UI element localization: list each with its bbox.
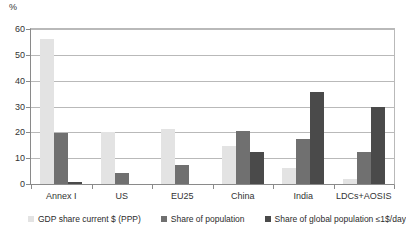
bar xyxy=(54,133,68,184)
legend-swatch-icon xyxy=(265,216,271,222)
y-axis: 60 50 40 30 20 10 0 xyxy=(0,28,30,186)
x-axis-tickmark xyxy=(213,185,214,189)
legend-item: Share of global population ≤1$/day xyxy=(265,214,406,224)
y-axis-tick-label: 20 xyxy=(15,128,25,137)
y-axis-tick-label: 10 xyxy=(15,154,25,163)
bar xyxy=(296,139,310,184)
legend-swatch-icon xyxy=(28,216,34,222)
x-axis-label: China xyxy=(213,190,274,204)
x-axis-tickmark xyxy=(394,185,395,189)
x-axis-label: US xyxy=(92,190,153,204)
bar xyxy=(115,173,129,184)
bar-group xyxy=(213,29,274,184)
legend-label: Share of population xyxy=(171,214,245,224)
bar xyxy=(371,107,385,185)
bar xyxy=(161,129,175,184)
legend-item: GDP share current $ (PPP) xyxy=(28,214,141,224)
legend-swatch-icon xyxy=(161,216,167,222)
legend-item: Share of population xyxy=(161,214,245,224)
bar-groups xyxy=(31,29,394,184)
bar xyxy=(40,39,54,184)
x-axis-labels: Annex I US EU25 China India LDCs+AOSIS xyxy=(31,190,394,204)
bar-group xyxy=(273,29,334,184)
legend-label: GDP share current $ (PPP) xyxy=(38,214,141,224)
bar-group xyxy=(92,29,153,184)
bar xyxy=(175,165,189,184)
bar-group xyxy=(152,29,213,184)
bar-group xyxy=(31,29,92,184)
x-axis-tickmarks xyxy=(31,185,394,189)
x-axis-tickmark xyxy=(31,185,32,189)
bar xyxy=(310,92,324,184)
bar xyxy=(101,132,115,184)
legend-label: Share of global population ≤1$/day xyxy=(275,214,406,224)
bar xyxy=(357,152,371,184)
x-axis-tickmark xyxy=(92,185,93,189)
bar xyxy=(236,131,250,184)
y-axis-unit-label: % xyxy=(9,3,17,12)
bar xyxy=(250,152,264,184)
x-axis-tickmark xyxy=(152,185,153,189)
chart-legend: GDP share current $ (PPP) Share of popul… xyxy=(0,212,406,226)
x-axis-tickmark xyxy=(273,185,274,189)
x-axis-label: EU25 xyxy=(152,190,213,204)
x-axis-label: Annex I xyxy=(31,190,92,204)
y-axis-tick-label: 60 xyxy=(15,25,25,34)
y-axis-tick-label: 50 xyxy=(15,50,25,59)
bar xyxy=(68,182,82,184)
x-axis-label: India xyxy=(273,190,334,204)
x-axis-tickmark xyxy=(334,185,335,189)
bar xyxy=(343,179,357,184)
y-axis-tick-label: 40 xyxy=(15,76,25,85)
bar xyxy=(222,146,236,184)
bar-group xyxy=(334,29,395,184)
bar xyxy=(282,168,296,184)
y-axis-tick-label: 0 xyxy=(20,180,25,189)
bar-chart: % 60 50 40 30 20 10 0 Annex I US EU25 Ch… xyxy=(0,0,406,228)
x-axis-label: LDCs+AOSIS xyxy=(334,190,395,204)
y-axis-tick-label: 30 xyxy=(15,102,25,111)
